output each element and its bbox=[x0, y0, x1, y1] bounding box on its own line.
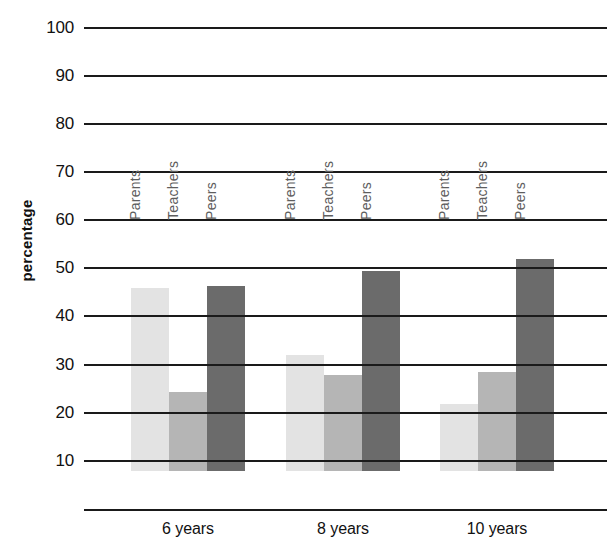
y-tick-label: 50 bbox=[20, 259, 74, 276]
gridline bbox=[84, 27, 607, 29]
bar-peers-8-years bbox=[362, 271, 400, 471]
gridline bbox=[84, 412, 607, 414]
gridline bbox=[84, 267, 607, 269]
series-label-parents: Parents bbox=[283, 170, 297, 220]
x-axis-group-label: 6 years bbox=[109, 520, 267, 538]
bar-chart: percentage 100908070605040302010 Parents… bbox=[0, 0, 607, 547]
y-tick-label: 100 bbox=[20, 19, 74, 36]
series-label-peers: Peers bbox=[204, 182, 218, 220]
bar-peers-6-years bbox=[207, 286, 245, 471]
series-label-parents: Parents bbox=[437, 170, 451, 220]
series-label-parents: Parents bbox=[128, 170, 142, 220]
y-tick-label: 80 bbox=[20, 115, 74, 132]
series-label-peers: Peers bbox=[513, 182, 527, 220]
gridline bbox=[84, 219, 607, 221]
series-label-teachers: Teachers bbox=[475, 161, 489, 220]
y-tick-label: 10 bbox=[20, 452, 74, 469]
y-tick-label: 60 bbox=[20, 211, 74, 228]
y-tick-label: 20 bbox=[20, 404, 74, 421]
gridline bbox=[84, 460, 607, 462]
y-tick-label: 90 bbox=[20, 67, 74, 84]
bar-teachers-8-years bbox=[324, 375, 362, 471]
gridline bbox=[84, 171, 607, 173]
bar-teachers-10-years bbox=[478, 372, 516, 471]
series-label-peers: Peers bbox=[359, 182, 373, 220]
series-label-teachers: Teachers bbox=[166, 161, 180, 220]
x-axis-line bbox=[84, 509, 607, 511]
plot-area: 100908070605040302010 ParentsTeachersPee… bbox=[0, 0, 607, 547]
gridline bbox=[84, 364, 607, 366]
x-axis-group-label: 8 years bbox=[264, 520, 422, 538]
series-label-teachers: Teachers bbox=[321, 161, 335, 220]
gridline bbox=[84, 123, 607, 125]
y-tick-label: 30 bbox=[20, 356, 74, 373]
y-tick-label: 70 bbox=[20, 163, 74, 180]
y-tick-label: 40 bbox=[20, 307, 74, 324]
gridline bbox=[84, 315, 607, 317]
gridline bbox=[84, 75, 607, 77]
x-axis-group-label: 10 years bbox=[418, 520, 576, 538]
